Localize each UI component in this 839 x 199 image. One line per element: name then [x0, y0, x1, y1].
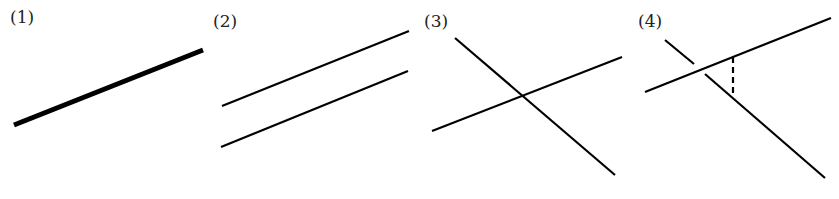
line-3-2: [455, 38, 615, 175]
panel-2: [221, 31, 409, 147]
panel-4-label: (4): [638, 13, 662, 30]
line-2-2: [221, 71, 408, 147]
panel-1-label: (1): [10, 9, 34, 26]
panel-3: [432, 38, 622, 175]
line-4-3: [705, 74, 825, 178]
line-3-1: [432, 57, 622, 131]
line-4-2: [665, 40, 694, 64]
panel-3-label: (3): [424, 13, 448, 30]
line-4-1: [645, 18, 831, 92]
line-relationship-figure: [0, 0, 839, 199]
line-1-1: [14, 50, 203, 125]
panel-2-label: (2): [213, 13, 237, 30]
line-2-1: [222, 31, 409, 106]
diagram-canvas: (1) (2) (3) (4): [0, 0, 839, 199]
panel-4: [645, 18, 831, 178]
panel-1: [14, 50, 203, 125]
